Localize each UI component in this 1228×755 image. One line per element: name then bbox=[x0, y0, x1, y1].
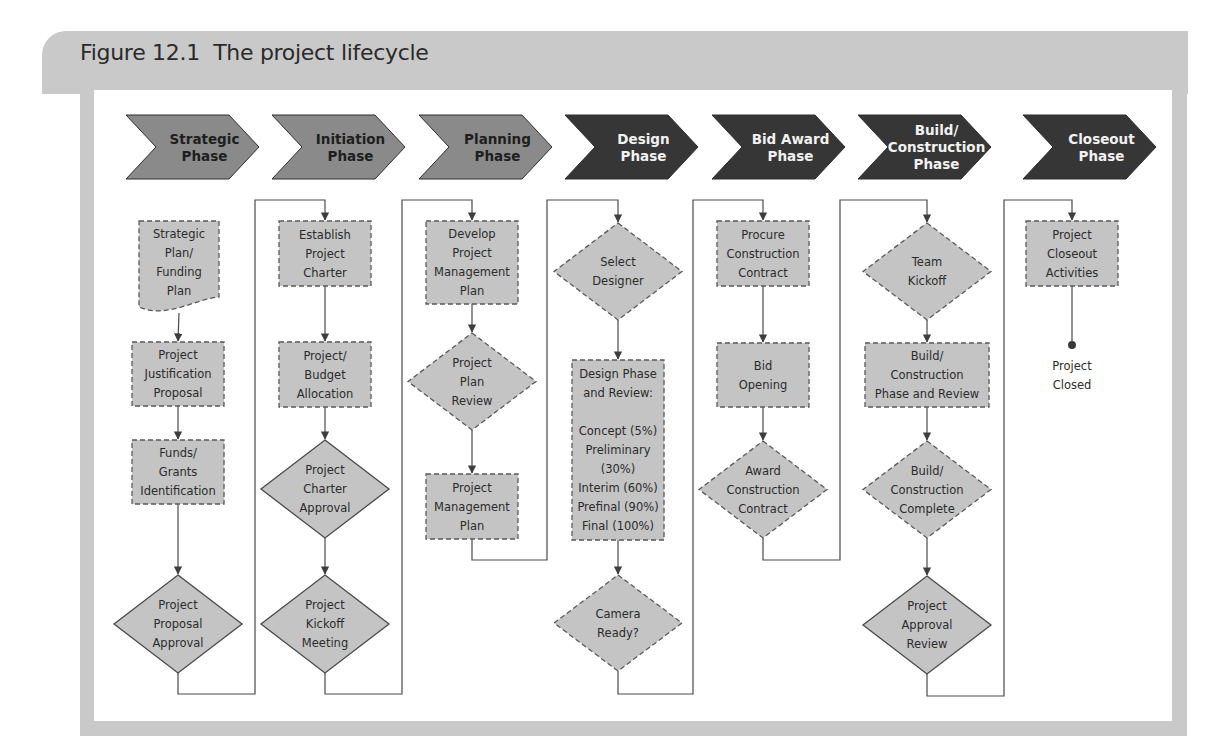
phase-label: Phase bbox=[475, 148, 521, 164]
node-label: Interim (60%) bbox=[578, 481, 658, 495]
node-build-construction-complete: Build/ConstructionComplete bbox=[863, 441, 991, 538]
node-label: Allocation bbox=[297, 387, 354, 401]
node-label: Management bbox=[434, 265, 510, 279]
project-lifecycle-flowchart: StrategicPhaseInitiationPhasePlanningPha… bbox=[0, 0, 1228, 755]
node-project-plan-review: ProjectPlanReview bbox=[408, 333, 536, 430]
node-label: Identification bbox=[140, 484, 215, 498]
node-label: Complete bbox=[899, 502, 954, 516]
node-build-construction-phase-and-review: Build/ConstructionPhase and Review bbox=[865, 343, 989, 407]
node-label: Award bbox=[745, 464, 781, 478]
phase-label: Planning bbox=[464, 131, 531, 147]
node-label: Plan bbox=[460, 375, 484, 389]
phase-label: Design bbox=[617, 131, 669, 147]
node-label: Closeout bbox=[1047, 247, 1098, 261]
node-label: Project bbox=[452, 481, 492, 495]
node-label: Project bbox=[452, 356, 492, 370]
node-label: Opening bbox=[739, 378, 788, 392]
node-label: Plan bbox=[460, 519, 484, 533]
phase-label: Phase bbox=[182, 148, 228, 164]
node-project-justification-proposal: ProjectJustificationProposal bbox=[132, 342, 224, 406]
node-layer: StrategicPlan/FundingPlanProjectJustific… bbox=[114, 221, 1118, 674]
node-project-closeout-activities: ProjectCloseoutActivities bbox=[1026, 221, 1118, 286]
node-design-phase-and-review: Design Phaseand Review:Concept (5%)Preli… bbox=[572, 360, 664, 540]
node-project-approval-review: ProjectApprovalReview bbox=[863, 576, 991, 674]
node-label: Proposal bbox=[154, 386, 203, 400]
phase-chevron-closeout: CloseoutPhase bbox=[1023, 115, 1156, 179]
node-label: Charter bbox=[303, 482, 347, 496]
node-label: Approval bbox=[901, 618, 952, 632]
node-label: Plan bbox=[167, 284, 191, 298]
node-select-designer: SelectDesigner bbox=[554, 223, 682, 320]
node-label: Plan/ bbox=[165, 246, 193, 260]
node-label: Construction bbox=[726, 247, 799, 261]
node-label: Project bbox=[1052, 359, 1092, 373]
node-label: Contract bbox=[738, 502, 788, 516]
node-label: Designer bbox=[592, 274, 644, 288]
decision-diamond bbox=[554, 223, 682, 320]
node-label: Kickoff bbox=[908, 274, 947, 288]
phase-label: Phase bbox=[914, 156, 960, 172]
node-label: Construction bbox=[890, 368, 963, 382]
phase-label: Phase bbox=[328, 148, 374, 164]
node-label: Establish bbox=[299, 228, 351, 242]
node-label: Review bbox=[906, 637, 947, 651]
node-label: Phase and Review bbox=[875, 387, 979, 401]
node-label: Build/ bbox=[911, 349, 944, 363]
node-label: Management bbox=[434, 500, 510, 514]
node-label: Plan bbox=[460, 284, 484, 298]
phase-label: Phase bbox=[768, 148, 814, 164]
node-label: Concept (5%) bbox=[579, 424, 657, 438]
node-label: Contract bbox=[738, 266, 788, 280]
node-label: Preliminary bbox=[586, 443, 651, 457]
phase-label: Phase bbox=[621, 148, 667, 164]
node-team-kickoff: TeamKickoff bbox=[863, 223, 991, 320]
node-label: Funding bbox=[156, 265, 202, 279]
node-label: Final (100%) bbox=[582, 519, 654, 533]
node-label: Construction bbox=[726, 483, 799, 497]
node-label: Strategic bbox=[153, 227, 205, 241]
node-project-management-plan: ProjectManagementPlan bbox=[426, 474, 518, 539]
node-label: Build/ bbox=[911, 464, 944, 478]
connector-strategic-plan-funding-plan-to-project-justification-proposal bbox=[178, 313, 179, 341]
node-label: Project/ bbox=[303, 349, 346, 363]
node-label: Project bbox=[452, 246, 492, 260]
node-label: and Review: bbox=[583, 386, 653, 400]
node-label: Design Phase bbox=[579, 367, 657, 381]
phase-label: Closeout bbox=[1068, 131, 1135, 147]
node-procure-construction-contract: ProcureConstructionContract bbox=[717, 221, 809, 286]
node-label: Kickoff bbox=[306, 617, 345, 631]
node-label: Justification bbox=[143, 367, 211, 381]
phase-label: Build/ bbox=[915, 122, 959, 138]
node-label: (30%) bbox=[601, 462, 636, 476]
node-label: Project bbox=[158, 348, 198, 362]
process-box bbox=[717, 343, 809, 407]
decision-diamond bbox=[554, 575, 682, 671]
phase-chevron-design: DesignPhase bbox=[565, 115, 698, 179]
node-label: Prefinal (90%) bbox=[577, 500, 658, 514]
node-project-charter-approval: ProjectCharterApproval bbox=[261, 440, 389, 538]
node-label: Approval bbox=[152, 636, 203, 650]
node-label: Project bbox=[1052, 228, 1092, 242]
node-label: Review bbox=[451, 394, 492, 408]
node-label: Procure bbox=[741, 228, 784, 242]
phase-chevron-strategic: StrategicPhase bbox=[126, 115, 259, 179]
node-project-kickoff-meeting: ProjectKickoffMeeting bbox=[261, 575, 389, 673]
node-camera-ready: CameraReady? bbox=[554, 575, 682, 671]
phase-chevron-planning: PlanningPhase bbox=[419, 115, 552, 179]
phase-chevron-row: StrategicPhaseInitiationPhasePlanningPha… bbox=[126, 115, 1156, 179]
node-label: Develop bbox=[448, 227, 495, 241]
node-project-proposal-approval: ProjectProposalApproval bbox=[114, 575, 242, 673]
phase-chevron-initiation: InitiationPhase bbox=[272, 115, 405, 179]
node-bid-opening: BidOpening bbox=[717, 343, 809, 407]
node-label: Funds/ bbox=[159, 446, 197, 460]
node-label: Charter bbox=[303, 266, 347, 280]
node-label: Construction bbox=[890, 483, 963, 497]
node-strategic-plan-funding-plan: StrategicPlan/FundingPlan bbox=[139, 221, 219, 311]
end-point-dot bbox=[1068, 341, 1076, 349]
node-label: Grants bbox=[159, 465, 197, 479]
node-label: Project bbox=[907, 599, 947, 613]
node-label: Proposal bbox=[154, 617, 203, 631]
phase-label: Phase bbox=[1079, 148, 1125, 164]
node-award-construction-contract: AwardConstructionContract bbox=[699, 441, 827, 538]
node-label: Project bbox=[305, 247, 345, 261]
